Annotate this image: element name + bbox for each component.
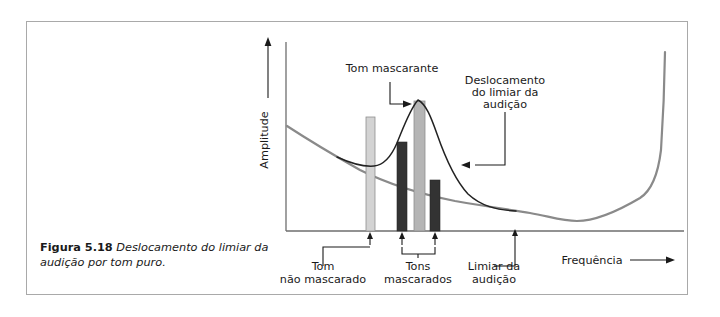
annotation-tom-nao-mascarado-line1: Tom bbox=[311, 260, 335, 273]
leader-deslocamento bbox=[475, 112, 505, 165]
bar-tom-nao-mascarado bbox=[366, 117, 375, 231]
bar-tom-mascarado-1 bbox=[397, 142, 407, 231]
bar-tom-mascarado-2 bbox=[430, 180, 440, 231]
figure-5-18: Amplitude Frequência bbox=[0, 0, 720, 317]
annotation-tons-mascarados-line1: Tons bbox=[405, 260, 431, 273]
amplitude-up-arrow-icon bbox=[265, 37, 272, 98]
y-axis-label: Amplitude bbox=[258, 111, 271, 168]
x-axis-label: Frequência bbox=[561, 254, 622, 267]
figure-number: Figura 5.18 bbox=[40, 241, 113, 254]
annotation-limiar-da-audicao-line1: Limiar da bbox=[468, 260, 520, 273]
annotation-deslocamento-line3: audição bbox=[483, 98, 527, 111]
annotation-limiar-da-audicao-line2: audição bbox=[472, 273, 516, 286]
leader-tom-mascarante bbox=[390, 82, 405, 104]
leader-tom-mascarante-arrow-icon bbox=[403, 101, 412, 108]
leader-deslocamento-arrow-icon bbox=[461, 162, 470, 169]
tick-arrow-unmasked-icon bbox=[367, 232, 373, 245]
annotation-tom-mascarante: Tom mascarante bbox=[345, 62, 439, 75]
annotation-tons-mascarados-line2: mascarados bbox=[384, 273, 452, 286]
figure-caption: Figura 5.18 Deslocamento do limiar da au… bbox=[40, 240, 270, 270]
bar-tom-mascarante bbox=[414, 101, 425, 231]
tick-arrow-masked-1-icon bbox=[399, 232, 405, 245]
leader-tons-mascarados bbox=[402, 247, 435, 254]
frequencia-right-arrow-icon bbox=[630, 257, 675, 264]
annotation-tom-nao-mascarado-line2: não mascarado bbox=[280, 273, 366, 286]
tick-arrow-masked-2-icon bbox=[432, 232, 438, 245]
